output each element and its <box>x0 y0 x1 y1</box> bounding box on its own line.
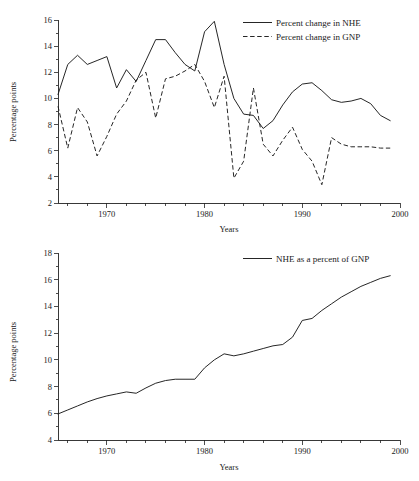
chart-bottom-svg: 4681012141618 1970198019902000 Percentag… <box>0 240 419 481</box>
x-tick-label: 1970 <box>98 446 115 456</box>
x-tick-label: 1980 <box>196 209 213 219</box>
bottom-x-tick-labels: 1970198019902000 <box>98 446 408 456</box>
y-tick-label: 8 <box>48 382 52 392</box>
y-tick-label: 10 <box>44 93 53 103</box>
y-tick-label: 14 <box>44 301 53 311</box>
bottom-y-ticks <box>54 253 58 440</box>
figure-page: 246810121416 1970198019902000 Percentage… <box>0 0 419 481</box>
y-tick-label: 12 <box>44 67 53 77</box>
bottom-y-tick-labels: 4681012141618 <box>44 248 53 445</box>
top-x-tick-labels: 1970198019902000 <box>98 209 408 219</box>
y-tick-label: 6 <box>48 408 52 418</box>
top-x-axis-title: Years <box>220 224 239 234</box>
chart-top-percent-change: 246810121416 1970198019902000 Percentage… <box>0 0 419 240</box>
x-tick-label: 2000 <box>392 209 409 219</box>
top-x-ticks <box>68 203 400 208</box>
series-nhe-as-percent-of-gnp <box>58 276 390 414</box>
legend-label-gnp: Percent change in GNP <box>276 32 360 42</box>
y-tick-label: 10 <box>44 355 53 365</box>
x-tick-label: 1970 <box>98 209 115 219</box>
y-tick-label: 14 <box>44 41 53 51</box>
x-tick-label: 2000 <box>392 446 409 456</box>
y-tick-label: 8 <box>48 120 52 130</box>
y-tick-label: 4 <box>48 435 53 445</box>
legend-label-nhe: Percent change in NHE <box>276 18 361 28</box>
bottom-x-axis-title: Years <box>220 462 239 472</box>
legend-label-nhe-share: NHE as a percent of GNP <box>276 254 369 264</box>
y-tick-label: 6 <box>48 146 52 156</box>
top-y-ticks <box>54 20 58 203</box>
top-y-axis-title: Percentage points <box>8 82 18 142</box>
y-tick-label: 4 <box>48 172 53 182</box>
y-tick-label: 2 <box>48 198 52 208</box>
y-tick-label: 16 <box>44 275 53 285</box>
y-tick-label: 16 <box>44 15 53 25</box>
bottom-y-axis-title: Percentage points <box>8 322 18 382</box>
bottom-legend: NHE as a percent of GNP <box>243 254 369 264</box>
x-tick-label: 1980 <box>196 446 213 456</box>
top-legend: Percent change in NHE Percent change in … <box>243 18 361 42</box>
bottom-x-ticks <box>68 440 400 445</box>
y-tick-label: 18 <box>44 248 53 258</box>
x-tick-label: 1990 <box>294 209 311 219</box>
chart-bottom-nhe-share: 4681012141618 1970198019902000 Percentag… <box>0 240 419 481</box>
x-tick-label: 1990 <box>294 446 311 456</box>
top-y-tick-labels: 246810121416 <box>44 15 53 208</box>
y-tick-label: 12 <box>44 328 53 338</box>
chart-top-svg: 246810121416 1970198019902000 Percentage… <box>0 0 419 240</box>
series-percent-change-gnp <box>58 64 390 184</box>
